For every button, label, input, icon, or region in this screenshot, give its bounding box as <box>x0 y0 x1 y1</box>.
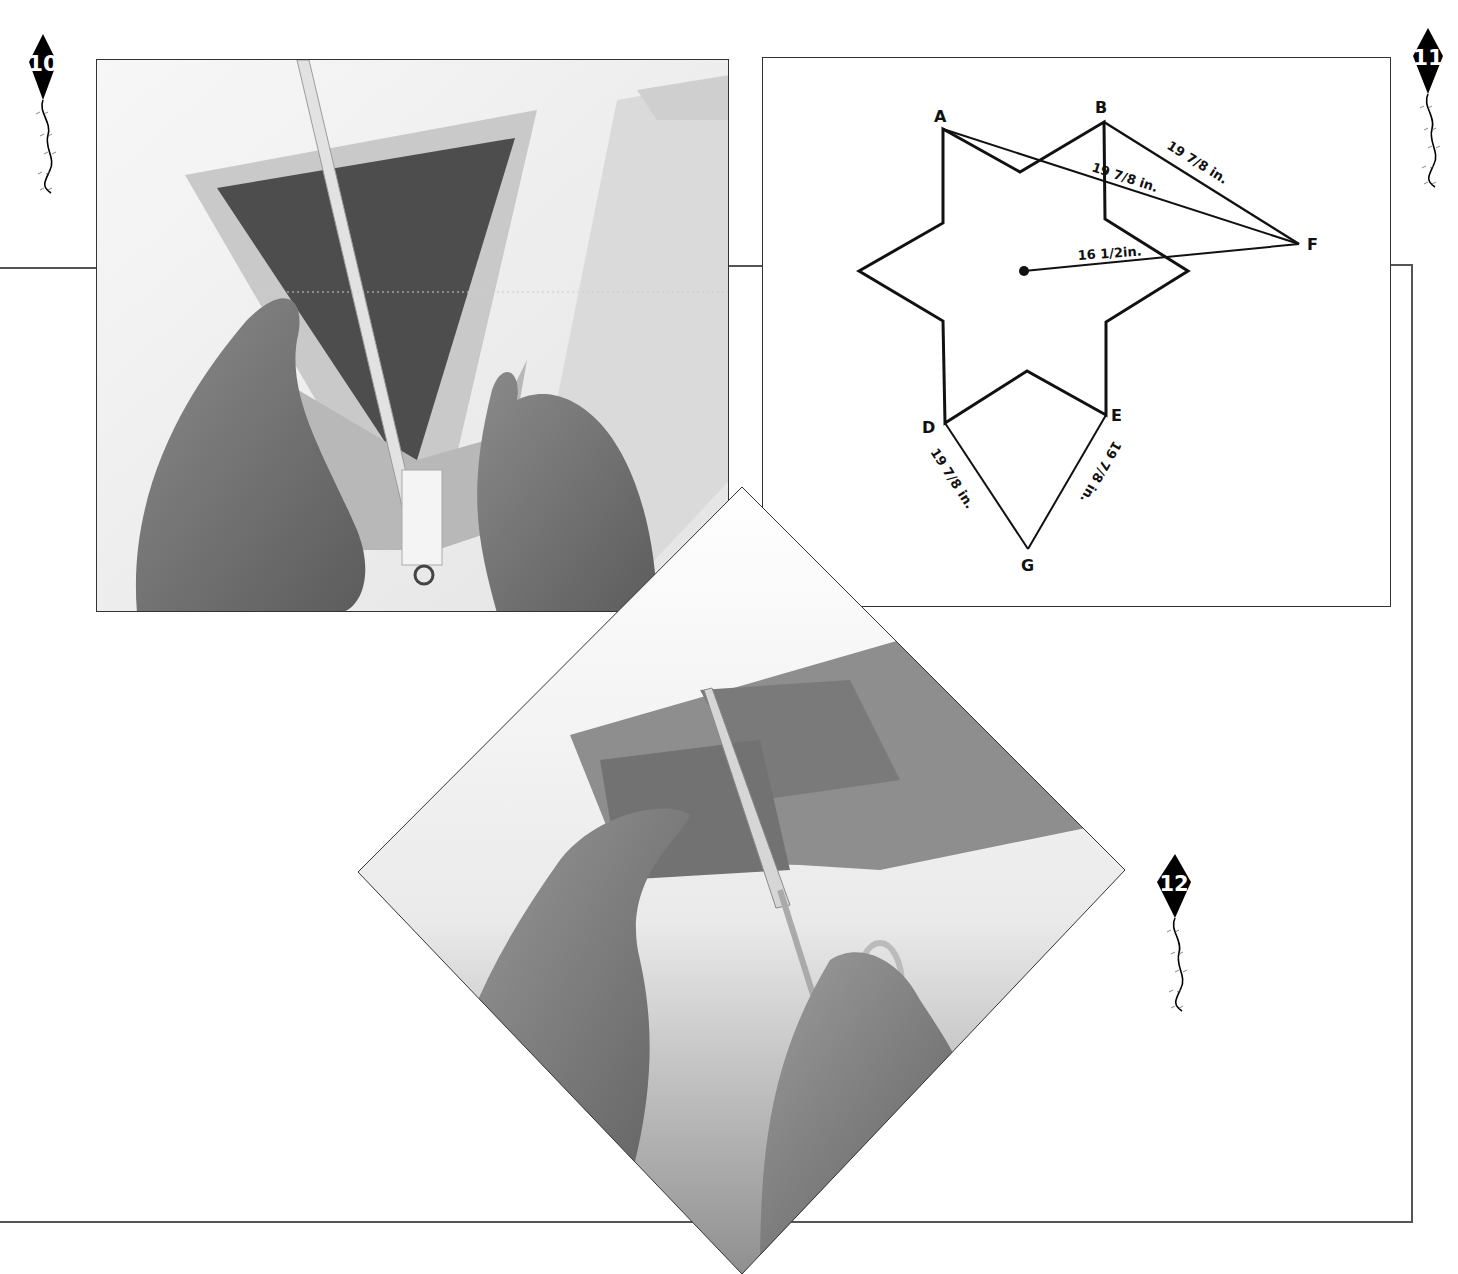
label-a: A <box>934 107 947 126</box>
step-number: 12 <box>1159 872 1188 896</box>
step-12-photo <box>358 487 1125 1274</box>
line-a-f <box>943 129 1299 244</box>
kite-icon: 10 <box>28 30 78 195</box>
frame-line-top-middle <box>727 265 763 267</box>
step-badge-10: 10 <box>28 30 78 195</box>
kite-icon: 12 <box>1152 852 1202 1017</box>
frame-line-right <box>1411 264 1413 1223</box>
kite-icon: 11 <box>1406 26 1456 191</box>
step-badge-12: 12 <box>1152 852 1202 1017</box>
label-e: E <box>1111 406 1122 425</box>
step-number: 11 <box>1413 45 1444 70</box>
frame-line-top-left <box>0 267 97 269</box>
step-badge-11: 11 <box>1406 26 1456 191</box>
frame-line-top-right <box>1390 264 1413 266</box>
cutting-fabric-photo <box>358 487 1125 1274</box>
step-number: 10 <box>28 51 58 76</box>
line-center-f <box>1024 244 1299 271</box>
label-f: F <box>1307 235 1318 254</box>
label-b: B <box>1095 98 1107 117</box>
center-point <box>1019 266 1029 276</box>
measure-a-f: 19 7/8 in. <box>1090 160 1160 195</box>
label-d: D <box>922 418 935 437</box>
